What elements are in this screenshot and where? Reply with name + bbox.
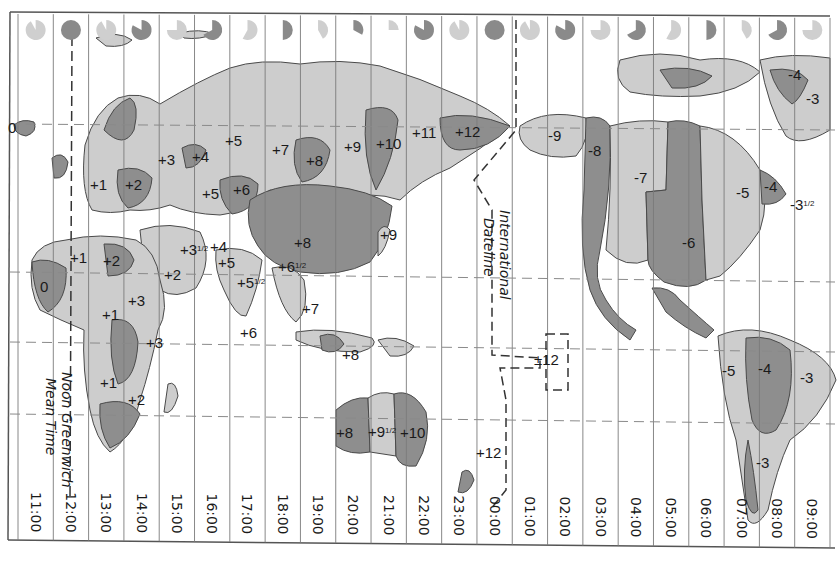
clock-face-icon	[243, 20, 258, 40]
zone-offset-label: +12	[476, 444, 501, 461]
hour-label: 20:00	[345, 495, 361, 535]
hour-label: 00:00	[487, 496, 503, 536]
hour-label: 13:00	[98, 493, 114, 533]
clock-face-icon	[485, 20, 505, 40]
zone-offset-label: +10	[376, 135, 401, 152]
clock-face-icon	[132, 20, 152, 40]
zone-offset-label: +2	[103, 252, 120, 269]
map-canvas: 0+1+2+3+4+5+5+6+7+8+9+10+11+12+1+20+3+31…	[0, 0, 839, 562]
zone-offset-label: -4	[788, 66, 801, 83]
greenwich-caption-line2: Mean Time	[43, 378, 59, 455]
zone-offset-label: +3	[146, 334, 163, 351]
zone-offset-label: +9	[380, 226, 397, 243]
clock-face-icon	[96, 20, 116, 40]
land-uk	[52, 155, 68, 178]
hour-label: 09:00	[804, 499, 820, 539]
hour-labels-row: 11:0012:0013:0014:0015:0016:0017:0018:00…	[28, 492, 821, 539]
clock-face-icon	[203, 20, 222, 40]
clock-face-icon	[318, 20, 328, 39]
hour-label: 02:00	[557, 497, 573, 537]
zone-offset-label: -3	[756, 454, 769, 471]
zone-offset-label: -3	[800, 369, 813, 386]
hour-label: 19:00	[310, 494, 326, 534]
zone-offset-label: +8	[306, 152, 323, 169]
zone-offset-label: +12	[455, 123, 480, 140]
land-china	[248, 185, 392, 274]
zone-offset-label: +51/2	[237, 274, 266, 291]
land-iceland	[14, 121, 35, 136]
clock-face-icon	[591, 20, 611, 40]
land-na-eastern	[700, 126, 765, 280]
zone-offset-label: +4	[192, 148, 209, 165]
clock-face-icon	[802, 20, 822, 40]
zone-offset-label: +5	[225, 132, 242, 149]
hour-label: 06:00	[698, 498, 714, 538]
hour-label: 04:00	[628, 497, 644, 537]
clock-face-icon	[555, 20, 575, 40]
zone-offset-label: +9	[344, 138, 361, 155]
zone-offset-label: 0	[40, 278, 48, 295]
clock-face-icon	[414, 20, 434, 40]
zone-offset-label: +1	[100, 374, 117, 391]
dateline-caption: International Dateline	[481, 210, 513, 300]
clock-face-icon	[742, 20, 752, 39]
zone-offset-label: -6	[682, 234, 695, 251]
clock-face-icon	[61, 20, 81, 40]
clock-face-icon	[449, 20, 469, 40]
land-new-zealand	[458, 470, 474, 493]
zone-offset-label: -4	[764, 178, 777, 195]
zone-offset-label: +2	[164, 266, 181, 283]
clock-face-icon	[353, 20, 363, 35]
landmasses	[14, 31, 836, 524]
zone-offset-label: +6	[240, 324, 257, 341]
land-south-africa	[100, 402, 140, 448]
hour-label: 05:00	[663, 497, 679, 537]
hour-label: 23:00	[451, 496, 467, 536]
hour-label: 22:00	[416, 495, 432, 535]
zone-offset-label: +3	[128, 292, 145, 309]
zone-offset-label: +6	[233, 181, 250, 198]
zone-offset-label: +1	[90, 176, 107, 193]
zone-offset-label: +3	[158, 151, 175, 168]
greenwich-caption: Noon Greenwich Mean Time	[43, 372, 75, 488]
clock-face-icon	[389, 20, 399, 30]
time-zone-map: 0+1+2+3+4+5+5+6+7+8+9+10+11+12+1+20+3+31…	[0, 0, 839, 562]
hour-label: 16:00	[204, 494, 220, 534]
zone-offset-label: +7	[302, 300, 319, 317]
zone-offset-label: -3	[806, 90, 819, 107]
zone-offset-label: -5	[736, 184, 749, 201]
zone-offset-label: +8	[294, 234, 311, 251]
zone-offset-label: +5	[218, 254, 235, 271]
zone-offset-label: +2	[125, 176, 142, 193]
zone-offset-label: -31/2	[790, 196, 815, 213]
zone-offset-label: +1	[102, 306, 119, 323]
dateline-caption-line1: International	[497, 210, 513, 300]
zone-offset-label: 0	[8, 119, 16, 136]
land-madagascar	[164, 383, 178, 412]
zone-offset-label: -5	[722, 362, 735, 379]
zone-offset-label: +10	[400, 424, 425, 441]
zone-offset-label: ±12	[534, 351, 559, 368]
clock-face-icon	[520, 20, 540, 40]
zone-offset-label: -4	[758, 360, 771, 377]
hour-label: 14:00	[134, 493, 150, 533]
zone-offset-label: +5	[202, 185, 219, 202]
clock-face-row	[26, 20, 823, 40]
zone-offset-label: +8	[342, 346, 359, 363]
zone-offset-label: -8	[588, 142, 601, 159]
hour-label: 07:00	[734, 498, 750, 538]
hour-label: 08:00	[769, 498, 785, 538]
clock-face-icon	[768, 20, 787, 40]
hour-label: 21:00	[381, 495, 397, 535]
hour-label: 11:00	[28, 492, 44, 532]
zone-offset-label: +1	[70, 249, 87, 266]
clock-face-icon	[627, 20, 646, 40]
land-central-america	[652, 288, 714, 338]
hour-label: 03:00	[593, 497, 609, 537]
clock-face-icon	[666, 20, 681, 40]
hour-label: 17:00	[239, 494, 255, 534]
zone-offset-label: +4	[210, 238, 227, 255]
clock-face-icon	[26, 20, 46, 40]
clock-face-icon	[167, 20, 187, 40]
greenwich-caption-line1: Noon Greenwich	[59, 372, 75, 488]
